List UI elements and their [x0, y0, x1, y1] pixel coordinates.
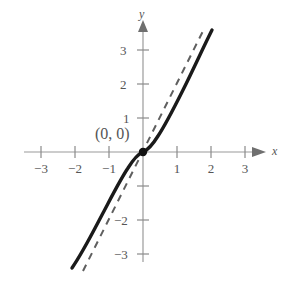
y-tick-label--3: −3	[114, 248, 128, 261]
origin-point-label: (0, 0)	[95, 126, 130, 142]
x-tick-label--2: −2	[68, 162, 82, 175]
y-tick-label-2: 2	[120, 78, 127, 91]
y-tick-label-1: 1	[123, 112, 130, 125]
x-tick-label-2: 2	[208, 162, 215, 175]
y-tick-label--2: −2	[114, 214, 128, 227]
x-tick-label--1: −1	[102, 162, 116, 175]
graph-figure	[0, 0, 294, 281]
y-axis-label: y	[139, 8, 144, 20]
x-tick-label-3: 3	[242, 162, 249, 175]
origin-point-marker	[139, 148, 147, 156]
x-axis-arrow	[252, 147, 266, 157]
y-tick-label-3: 3	[120, 44, 127, 57]
y-axis-arrow	[138, 20, 148, 32]
y-axis	[138, 20, 148, 262]
x-tick-label--3: −3	[34, 162, 48, 175]
x-tick-label-1: 1	[174, 162, 181, 175]
x-axis-label: x	[272, 145, 277, 157]
